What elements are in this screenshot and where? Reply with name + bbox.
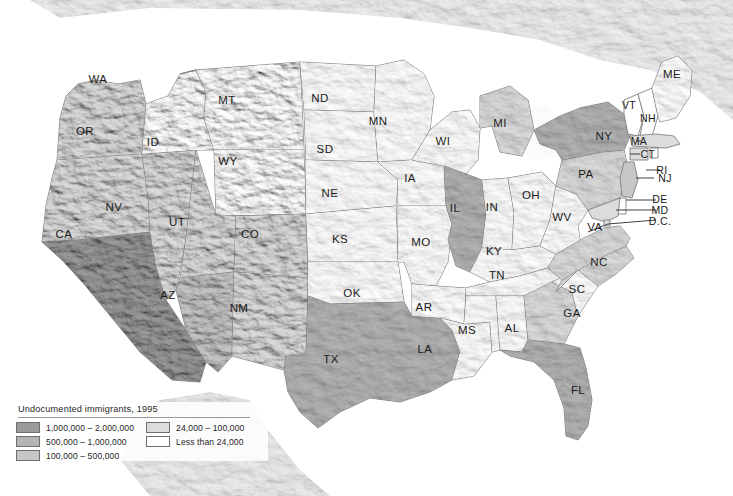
- label-DC: D.C.: [649, 215, 672, 227]
- legend-item[interactable]: 500,000 – 1,000,000: [16, 436, 142, 447]
- legend-swatch: [16, 422, 40, 433]
- state-NM[interactable]: [232, 272, 308, 370]
- label-NV: NV: [106, 201, 123, 213]
- label-MO: MO: [411, 236, 430, 248]
- legend-swatch: [146, 436, 170, 447]
- label-SC: SC: [569, 283, 586, 295]
- legend-title: Undocumented immigrants, 1995: [16, 404, 268, 417]
- legend-columns: 1,000,000 – 2,000,000 500,000 – 1,000,00…: [16, 422, 268, 461]
- label-ME: ME: [663, 68, 681, 80]
- legend-divider: [18, 417, 250, 418]
- label-CA: CA: [56, 228, 73, 240]
- state-SD[interactable]: [304, 110, 378, 162]
- label-ND: ND: [311, 92, 328, 104]
- label-TX: TX: [323, 353, 339, 365]
- legend-swatch: [16, 450, 40, 461]
- label-MT: MT: [218, 94, 235, 106]
- label-VA: VA: [587, 221, 602, 233]
- label-MA: MA: [631, 135, 648, 147]
- label-TN: TN: [489, 269, 505, 281]
- legend-item[interactable]: 24,000 – 100,000: [146, 422, 245, 433]
- label-NE: NE: [322, 187, 339, 199]
- label-WI: WI: [436, 135, 451, 147]
- label-FL: FL: [571, 384, 585, 396]
- legend-item[interactable]: 1,000,000 – 2,000,000: [16, 422, 142, 433]
- legend-swatch: [146, 422, 170, 433]
- label-AL: AL: [505, 322, 520, 334]
- legend-column-1: 1,000,000 – 2,000,000 500,000 – 1,000,00…: [16, 422, 142, 461]
- legend-label: 500,000 – 1,000,000: [46, 437, 127, 447]
- map-figure: WA OR CA NV ID MT WY UT AZ CO NM ND SD N…: [0, 0, 733, 496]
- label-VT: VT: [622, 99, 636, 111]
- state-KS[interactable]: [306, 206, 398, 262]
- label-IL: IL: [450, 202, 461, 214]
- legend-item[interactable]: Less than 24,000: [146, 436, 245, 447]
- label-NM: NM: [230, 302, 249, 314]
- label-OR: OR: [76, 125, 94, 137]
- label-IA: IA: [404, 172, 416, 184]
- label-SD: SD: [317, 143, 334, 155]
- state-WA[interactable]: [57, 80, 146, 162]
- label-NY: NY: [596, 130, 613, 142]
- label-ID: ID: [147, 136, 159, 148]
- legend-label: 100,000 – 500,000: [46, 451, 119, 461]
- legend-label: 24,000 – 100,000: [176, 423, 245, 433]
- label-NH: NH: [640, 112, 656, 124]
- legend-label: 1,000,000 – 2,000,000: [46, 423, 134, 433]
- legend-item[interactable]: 100,000 – 500,000: [16, 450, 142, 461]
- label-WA: WA: [89, 73, 108, 85]
- label-UT: UT: [169, 216, 185, 228]
- map-legend: Undocumented immigrants, 1995 1,000,000 …: [16, 402, 268, 461]
- label-NC: NC: [590, 256, 607, 268]
- state-CO[interactable]: [234, 214, 308, 278]
- state-ND[interactable]: [300, 62, 376, 112]
- legend-column-2: 24,000 – 100,000 Less than 24,000: [146, 422, 245, 461]
- label-WY: WY: [218, 155, 237, 167]
- label-KS: KS: [332, 233, 348, 245]
- label-GA: GA: [563, 307, 580, 319]
- label-OK: OK: [343, 287, 360, 299]
- label-RI: RI: [656, 164, 667, 176]
- label-MI: MI: [493, 117, 507, 129]
- label-CT: CT: [641, 148, 656, 160]
- label-PA: PA: [578, 168, 593, 180]
- label-KY: KY: [486, 245, 502, 257]
- label-WV: WV: [552, 211, 571, 223]
- label-AR: AR: [416, 301, 433, 313]
- label-AZ: AZ: [160, 289, 176, 301]
- label-LA: LA: [418, 343, 433, 355]
- state-IN[interactable]: [482, 178, 514, 250]
- label-IN: IN: [486, 201, 498, 213]
- legend-swatch: [16, 436, 40, 447]
- label-OH: OH: [522, 189, 540, 201]
- label-CO: CO: [241, 228, 259, 240]
- legend-label: Less than 24,000: [176, 437, 244, 447]
- label-MS: MS: [458, 324, 476, 336]
- label-MN: MN: [369, 115, 388, 127]
